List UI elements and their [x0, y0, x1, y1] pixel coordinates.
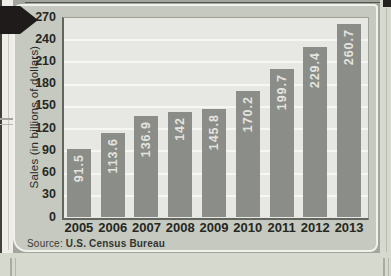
x-tick-label: 2008 — [163, 220, 197, 236]
x-tick-label: 2010 — [231, 220, 265, 236]
x-tick-label: 2011 — [265, 220, 299, 236]
bar: 260.7 — [337, 24, 361, 217]
x-tick-label: 2005 — [62, 220, 96, 236]
bar-value-label: 260.7 — [342, 29, 356, 65]
x-tick-label: 2007 — [130, 220, 164, 236]
gridline — [64, 39, 368, 41]
x-tick-label: 2006 — [96, 220, 130, 236]
bar-value-label: 145.8 — [207, 114, 221, 150]
bar-value-label: 136.9 — [139, 121, 153, 157]
bar: 136.9 — [134, 116, 158, 217]
source-label: Source: — [27, 238, 63, 249]
bar-value-label: 170.2 — [241, 96, 255, 132]
bar-value-label: 229.4 — [308, 52, 322, 88]
x-tick-label: 2012 — [298, 220, 332, 236]
y-tick-label: 0 — [0, 210, 56, 225]
bar: 229.4 — [303, 47, 327, 217]
bar: 145.8 — [202, 109, 226, 217]
page: 0306090120150180210240270 20052006200720… — [0, 0, 391, 276]
bar: 142 — [168, 112, 192, 217]
source-name: U.S. Census Bureau — [66, 238, 165, 249]
bar-value-label: 91.5 — [72, 154, 86, 182]
bar: 199.7 — [270, 69, 294, 217]
bar-value-label: 199.7 — [275, 74, 289, 110]
source-line: Source: U.S. Census Bureau — [27, 238, 165, 249]
y-axis-title: Sales (in billions of dollars) — [28, 46, 40, 189]
x-tick-label: 2009 — [197, 220, 231, 236]
bar-value-label: 113.6 — [106, 138, 120, 174]
bar: 91.5 — [67, 149, 91, 217]
bar-value-label: 142 — [173, 117, 187, 141]
bar: 113.6 — [101, 133, 125, 217]
y-tick-label: 30 — [0, 187, 56, 202]
x-tick-label: 2013 — [332, 220, 366, 236]
bar: 170.2 — [236, 91, 260, 217]
bar-chart: 0306090120150180210240270 20052006200720… — [0, 0, 391, 276]
